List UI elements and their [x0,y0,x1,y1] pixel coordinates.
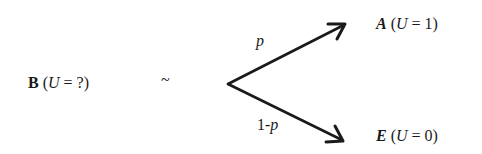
b-symbol: B [28,74,39,91]
utility-var: U [396,127,408,144]
outcome-e-label: E (U = 0) [376,128,438,144]
upper-arrow [228,26,342,84]
a-symbol: A [376,15,387,32]
probability-p-label: p [256,33,264,49]
tilde-symbol: ~ [161,72,170,88]
outcome-a-label: A (U = 1) [376,16,438,32]
probability-1-minus-p-label: 1-p [257,117,278,133]
lottery-b-label: B (U = ?) [28,75,89,91]
utility-var: U [48,74,60,91]
lower-arrow [228,84,340,139]
utility-var: U [396,15,408,32]
e-symbol: E [376,127,387,144]
